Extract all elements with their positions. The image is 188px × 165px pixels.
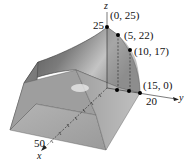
highlight [71, 84, 89, 92]
point-label-0-25: (0, 25) [110, 10, 139, 21]
z-tick-label: 25 [93, 20, 104, 31]
point-10-17 [128, 48, 132, 52]
point-label-15-0: (15, 0) [143, 80, 172, 91]
point-10-0 [127, 89, 131, 93]
x-tick-label: 50 [34, 138, 45, 149]
y-tick-label: 20 [146, 96, 157, 107]
z-axis-label: z [104, 1, 108, 11]
point-label-5-22: (5, 22) [124, 30, 153, 41]
point-5-0 [115, 88, 119, 92]
y-axis-label: y [179, 93, 183, 103]
point-label-10-17: (10, 17) [134, 46, 169, 57]
point-15-0 [138, 91, 142, 95]
point-0-25 [105, 25, 109, 29]
x-axis-label: x [37, 151, 41, 161]
figure-canvas: z 25 (0, 25) (5, 22) (10, 17) (15, 0) 20… [0, 0, 188, 165]
point-5-22 [116, 33, 120, 37]
